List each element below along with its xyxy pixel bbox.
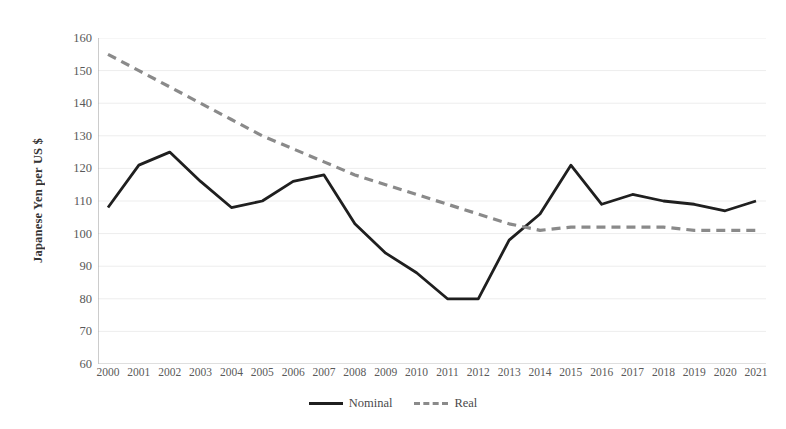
series-line-nominal xyxy=(108,152,756,299)
x-tick-label: 2015 xyxy=(559,366,582,378)
y-tick-label: 140 xyxy=(73,96,92,111)
y-tick-label: 160 xyxy=(73,31,92,46)
plot-svg xyxy=(98,38,766,364)
x-tick-label: 2007 xyxy=(313,366,336,378)
x-tick-label: 2000 xyxy=(97,366,120,378)
x-tick-label: 2016 xyxy=(590,366,613,378)
x-tick-label: 2003 xyxy=(189,366,212,378)
y-tick-label: 120 xyxy=(73,161,92,176)
chart-container: Japanese Yen per US $ 607080901001101201… xyxy=(0,0,786,429)
x-tick-label: 2006 xyxy=(282,366,305,378)
x-tick-label: 2009 xyxy=(374,366,397,378)
y-tick-label: 90 xyxy=(80,259,93,274)
y-tick-label: 110 xyxy=(74,194,92,209)
x-tick-label: 2012 xyxy=(467,366,490,378)
x-tick-label: 2017 xyxy=(621,366,644,378)
x-tick-label: 2002 xyxy=(158,366,181,378)
x-tick-label: 2014 xyxy=(529,366,552,378)
x-axis-tick-labels: 2000200120022003200420052006200720082009… xyxy=(98,366,766,390)
legend-label: Nominal xyxy=(349,396,393,411)
x-tick-label: 2013 xyxy=(498,366,521,378)
x-tick-label: 2005 xyxy=(251,366,274,378)
legend-swatch-real xyxy=(414,402,448,405)
y-tick-label: 60 xyxy=(80,357,93,372)
y-tick-label: 150 xyxy=(73,63,92,78)
series-line-real xyxy=(108,54,756,230)
x-tick-label: 2020 xyxy=(714,366,737,378)
x-tick-label: 2011 xyxy=(436,366,459,378)
series-lines xyxy=(108,54,756,298)
y-axis-tick-labels: 60708090100110120130140150160 xyxy=(58,38,96,364)
y-tick-label: 80 xyxy=(80,291,93,306)
legend-item-real[interactable]: Real xyxy=(414,396,477,411)
x-tick-label: 2004 xyxy=(220,366,243,378)
y-tick-label: 100 xyxy=(73,226,92,241)
x-tick-label: 2008 xyxy=(343,366,366,378)
plot-area xyxy=(98,38,766,364)
chart-legend: NominalReal xyxy=(0,396,786,411)
x-tick-label: 2019 xyxy=(683,366,706,378)
legend-swatch-nominal xyxy=(309,402,343,405)
y-tick-label: 70 xyxy=(80,324,93,339)
y-axis-title: Japanese Yen per US $ xyxy=(24,60,52,340)
x-tick-label: 2018 xyxy=(652,366,675,378)
legend-item-nominal[interactable]: Nominal xyxy=(309,396,393,411)
y-tick-label: 130 xyxy=(73,128,92,143)
x-tick-label: 2010 xyxy=(405,366,428,378)
x-tick-label: 2021 xyxy=(745,366,768,378)
legend-label: Real xyxy=(454,396,477,411)
x-tick-label: 2001 xyxy=(127,366,150,378)
